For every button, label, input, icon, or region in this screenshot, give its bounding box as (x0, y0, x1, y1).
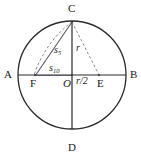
point-f-marker (34, 74, 36, 76)
segment-label-half-radius: r/2 (76, 76, 88, 86)
geometry-diagram: A B C D O E F s5 s10 r r/2 (0, 0, 141, 160)
vertex-label-f: F (30, 78, 36, 89)
vertex-label-o: O (63, 78, 71, 89)
vertex-label-b: B (130, 69, 137, 80)
vertex-label-d: D (68, 142, 76, 153)
vertex-label-a: A (4, 69, 12, 80)
segment-label-s10: s10 (49, 63, 59, 74)
segment-label-s10-sub: 10 (53, 67, 60, 74)
point-o-marker (71, 74, 73, 76)
vertex-label-c: C (68, 3, 75, 14)
point-e-marker (98, 74, 100, 76)
segment-label-s5-sub: 5 (58, 49, 61, 56)
segment-label-radius: r (76, 43, 80, 53)
segment-label-s5: s5 (54, 45, 61, 56)
vertex-label-e: E (97, 78, 104, 89)
point-c-marker (71, 21, 73, 23)
